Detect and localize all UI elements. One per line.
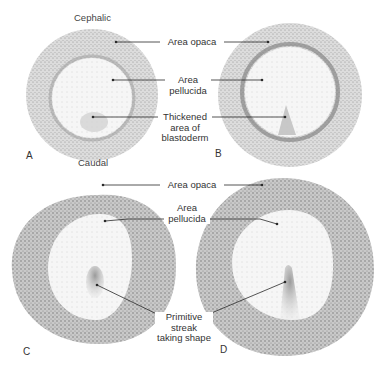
panel-letter-c: C bbox=[23, 346, 30, 357]
panel-letter-a: A bbox=[26, 150, 33, 161]
caudal-label: Caudal bbox=[78, 157, 108, 168]
label-text: taking shape bbox=[156, 333, 212, 344]
label-text: Area opaca bbox=[168, 36, 217, 47]
cephalic-label: Cephalic bbox=[74, 12, 111, 23]
label-area-opaca-top: Area opaca bbox=[160, 37, 224, 48]
label-text: pellucida bbox=[165, 214, 209, 225]
label-text: Primitive bbox=[156, 312, 212, 323]
panel-letter-d: D bbox=[220, 344, 227, 355]
label-area-pellucida-bottom: Area pellucida bbox=[164, 203, 210, 224]
label-primitive-streak: Primitive streak taking shape bbox=[155, 312, 213, 344]
label-text: pellucida bbox=[166, 86, 210, 97]
label-area-pellucida-top: Area pellucida bbox=[165, 75, 211, 96]
label-text: blastoderm bbox=[159, 133, 211, 144]
label-text: Area bbox=[166, 75, 210, 86]
panel-c-drawing bbox=[12, 195, 176, 344]
label-thickened-blastoderm: Thickened area of blastoderm bbox=[158, 112, 212, 144]
panel-d-drawing bbox=[196, 178, 374, 356]
panel-b-drawing bbox=[218, 23, 362, 167]
label-text: Area opaca bbox=[168, 179, 217, 190]
label-area-opaca-bottom: Area opaca bbox=[160, 180, 224, 191]
label-text: Area bbox=[165, 203, 209, 214]
panel-a-drawing bbox=[26, 29, 158, 161]
embryo-diagram-figure: Cephalic Caudal A B C D Area opaca Area … bbox=[0, 0, 387, 366]
panel-letter-b: B bbox=[215, 148, 222, 159]
label-text: Thickened bbox=[159, 112, 211, 123]
